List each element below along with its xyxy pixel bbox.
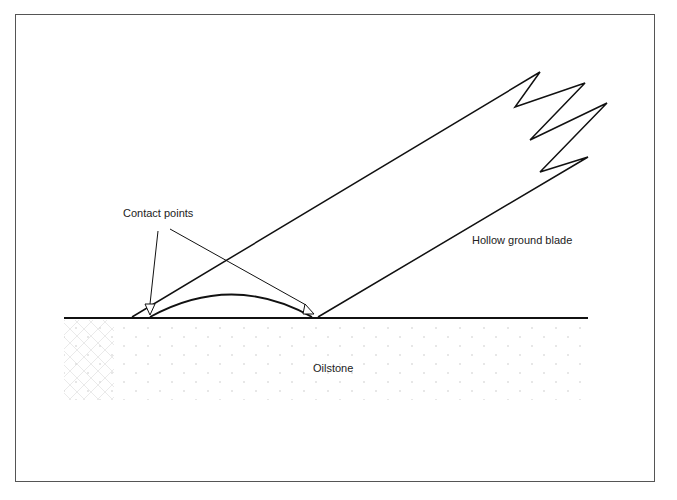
label-hollow-ground-blade: Hollow ground blade [472,234,572,246]
hollow-grind-arc [150,295,312,318]
oilstone-surface [64,320,588,400]
label-oilstone: Oilstone [313,362,353,374]
arrowhead-icon [303,304,314,314]
blade-outline [132,72,607,317]
arrowhead-icon [145,304,155,315]
contact-point-leaders [145,229,314,315]
hollow-ground-diagram [0,0,677,500]
label-contact-points: Contact points [123,207,193,219]
